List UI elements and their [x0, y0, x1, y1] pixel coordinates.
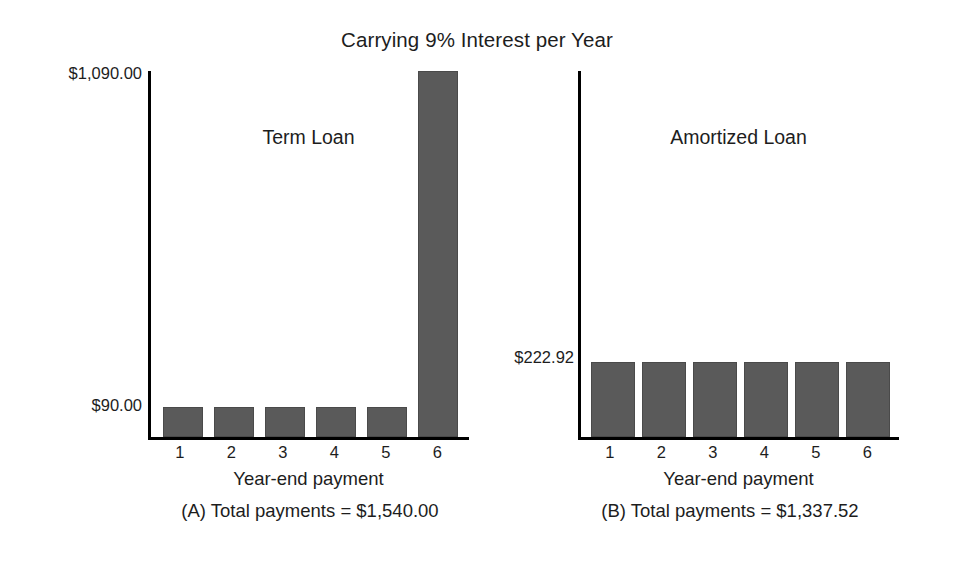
- panel-amortized-loan: $222.92 Amortized Loan 1 2 3 4 5 6 Year-…: [460, 0, 954, 566]
- bar-a-3: [265, 407, 305, 437]
- bar-b-6: [846, 362, 890, 437]
- x-tick-a-1: 1: [160, 443, 200, 462]
- x-tick-b-1: 1: [590, 443, 630, 462]
- x-tick-b-5: 5: [796, 443, 836, 462]
- x-tick-a-5: 5: [366, 443, 406, 462]
- figure-root: Carrying 9% Interest per Year $1,090.00 …: [0, 0, 954, 566]
- x-tick-a-4: 4: [314, 443, 354, 462]
- x-axis-label-b: Year-end payment: [578, 468, 899, 490]
- x-tick-b-3: 3: [693, 443, 733, 462]
- y-tick-label-bottom-a: $90.00: [92, 396, 142, 415]
- bar-a-1: [163, 407, 203, 437]
- bar-b-5: [795, 362, 839, 437]
- bar-a-4: [316, 407, 356, 437]
- x-axis-label-a: Year-end payment: [148, 468, 469, 490]
- bar-b-3: [693, 362, 737, 437]
- x-tick-b-4: 4: [744, 443, 784, 462]
- bar-b-2: [642, 362, 686, 437]
- bar-b-1: [591, 362, 635, 437]
- series-label-b: Amortized Loan: [578, 126, 899, 149]
- x-tick-a-6: 6: [417, 443, 457, 462]
- y-tick-label-top-a: $1,090.00: [69, 64, 142, 83]
- bar-a-5: [367, 407, 407, 437]
- x-tick-b-2: 2: [641, 443, 681, 462]
- x-tick-a-3: 3: [263, 443, 303, 462]
- bar-a-2: [214, 407, 254, 437]
- x-tick-b-6: 6: [847, 443, 887, 462]
- x-tick-a-2: 2: [211, 443, 251, 462]
- series-label-a: Term Loan: [148, 126, 469, 149]
- panel-caption-b: (B) Total payments = $1,337.52: [480, 500, 954, 522]
- x-tick-labels-b: 1 2 3 4 5 6: [578, 443, 899, 462]
- bar-b-4: [744, 362, 788, 437]
- panel-term-loan: $1,090.00 $90.00 Term Loan 1 2 3 4 5 6 Y…: [0, 0, 520, 566]
- x-tick-labels-a: 1 2 3 4 5 6: [148, 443, 469, 462]
- y-tick-label-b: $222.92: [514, 348, 574, 367]
